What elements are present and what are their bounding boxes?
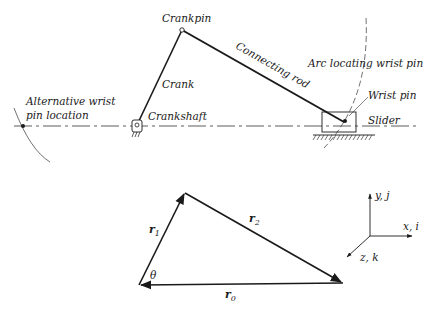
slider-block (322, 112, 356, 132)
crankpin-joint (180, 28, 184, 32)
crankshaft-bearing (132, 120, 142, 137)
label-alternative-wrist-1: Alternative wrist (25, 95, 116, 107)
label-x-axis: x, i (403, 220, 419, 232)
label-crank: Crank (162, 78, 194, 90)
wrist-pin-arc (324, 18, 366, 148)
label-theta: θ (150, 269, 157, 281)
label-z-axis: z, k (359, 251, 379, 263)
label-crankpin: Crankpin (162, 12, 212, 24)
label-r0: r0 (225, 288, 236, 303)
label-r1: r1 (149, 223, 160, 238)
slider-crank-diagram: Crankpin Crank Crankshaft Connecting rod… (0, 0, 434, 310)
label-slider: Slider (368, 114, 401, 126)
label-wrist-pin: Wrist pin (368, 89, 417, 101)
connecting-rod-link (182, 30, 344, 122)
label-alternative-wrist-2: pin location (26, 109, 89, 121)
vector-r2 (185, 193, 341, 282)
label-r2: r2 (249, 212, 260, 227)
ground-hatch (313, 135, 375, 140)
vector-r1 (139, 194, 184, 285)
label-y-axis: y, j (374, 189, 390, 201)
vector-r0 (141, 283, 343, 285)
label-crankshaft: Crankshaft (148, 110, 208, 122)
label-arc-locating-wrist-pin: Arc locating wrist pin (307, 57, 423, 69)
